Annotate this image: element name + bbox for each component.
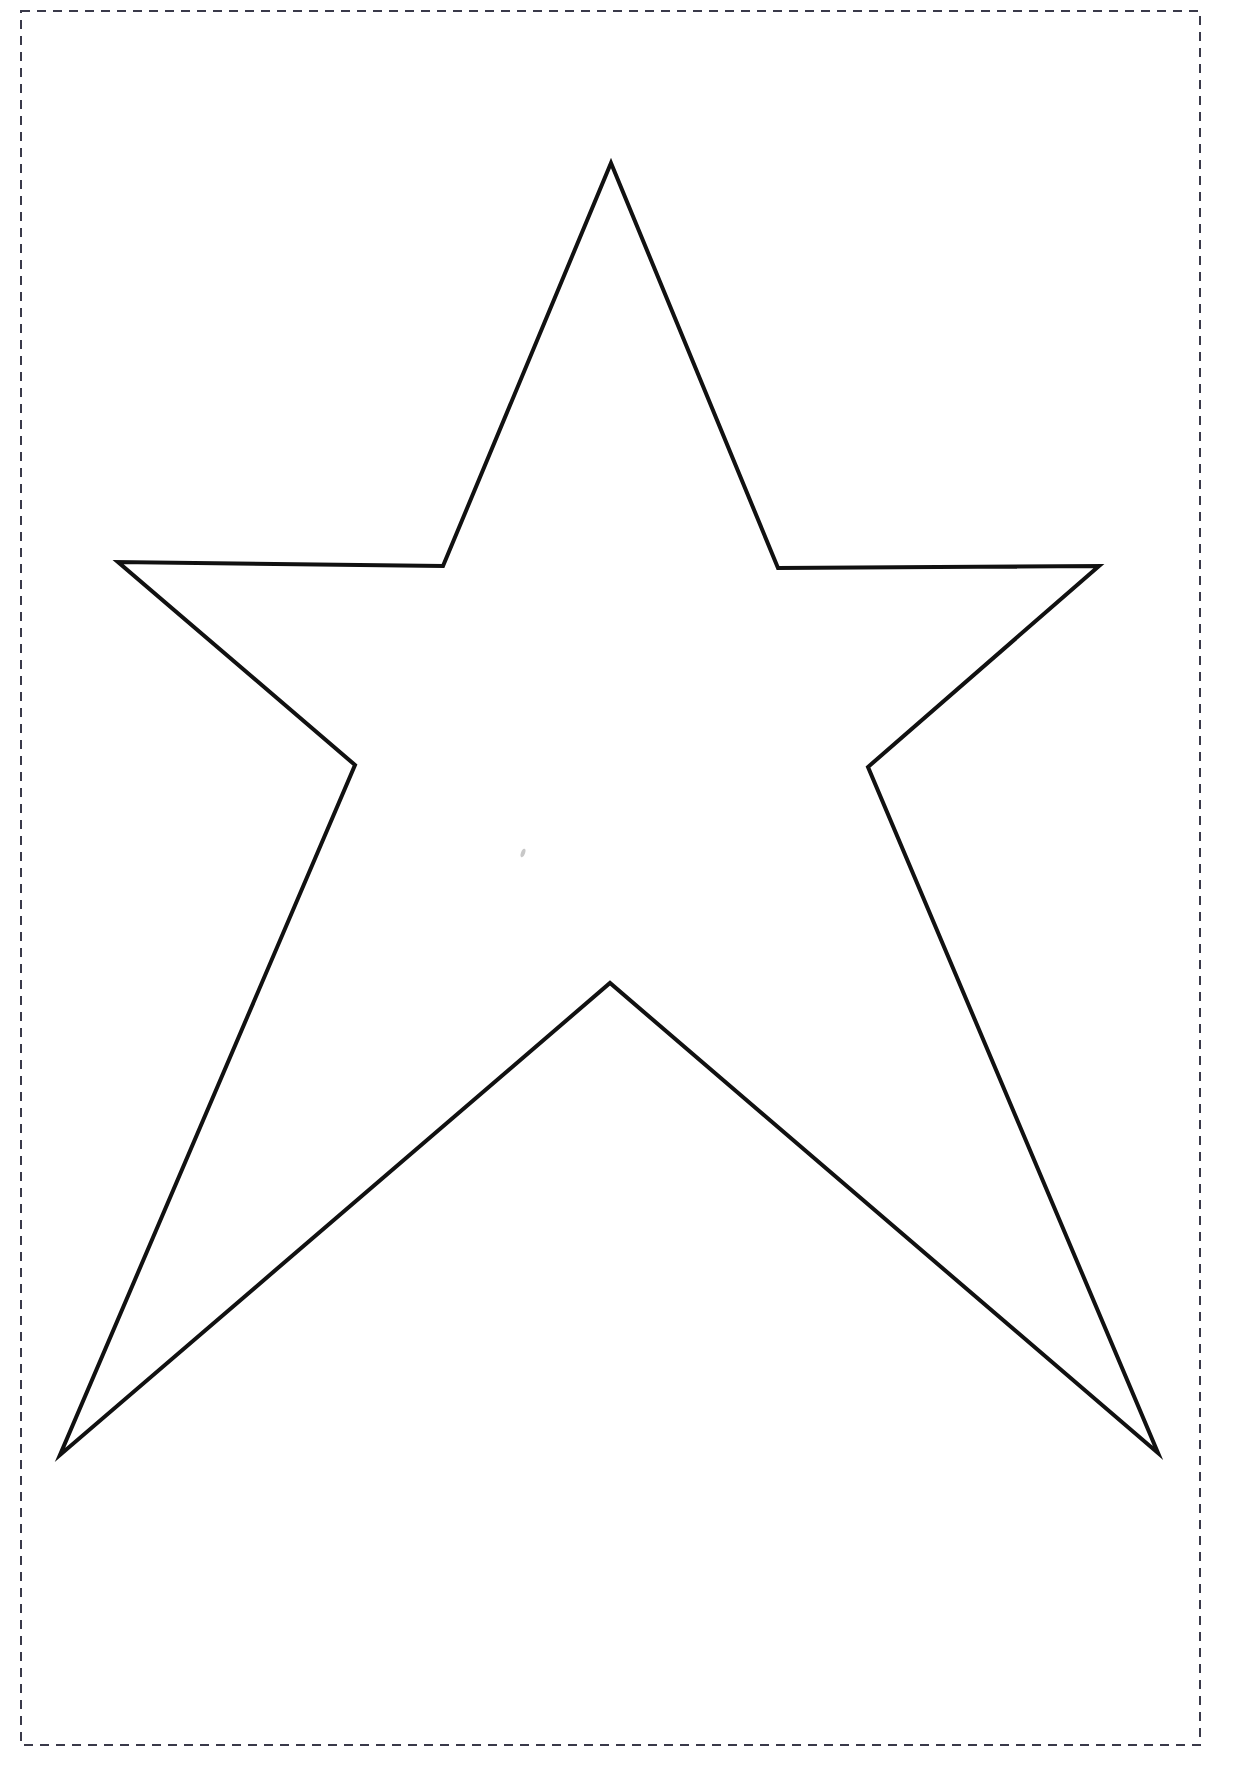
page-canvas	[0, 0, 1240, 1781]
star-template-drawing	[0, 0, 1240, 1781]
